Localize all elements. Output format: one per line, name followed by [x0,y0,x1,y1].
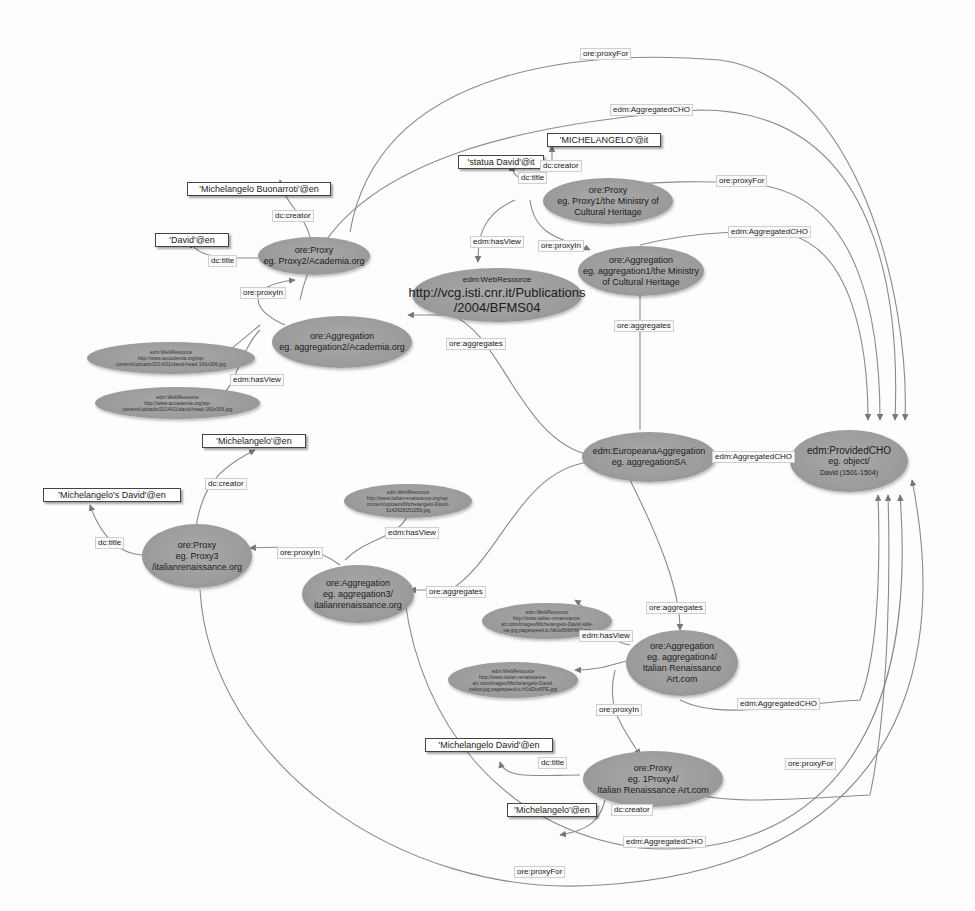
aggregation3-node[interactable]: ore:Aggregationeg. aggregation3/italianr… [302,565,414,623]
node-example: eg. aggregation3/ [314,589,402,600]
edge-label-hasview: edm:hasView [470,236,524,248]
node-example: Art.com [643,674,722,685]
node-type: ore:Proxy [263,245,364,256]
edge-label-hasview: edm:hasView [579,630,633,642]
literal-david-en[interactable]: 'David'@en [155,233,229,247]
edge-label-aggregatedcho: edm:AggregatedCHO [610,104,693,116]
edm-graph-diagram: edm:ProvidedCHOeg. object/David (1501-15… [0,0,975,911]
literal-michelangelos-david-en[interactable]: 'Michelangelo's David'@en [43,488,181,502]
node-example: David (1501-1504) [807,467,891,478]
edge-label-dc-creator: dc:creator [205,478,247,490]
node-example: Italian Renaissance [643,663,722,674]
node-url: http://vcg.isti.cnr.it/Publications [408,285,585,300]
edge-label-dc-title: dc:title [208,255,237,267]
node-example: eg. object/ [807,456,891,467]
edge-label-aggregates: ore:aggregates [614,320,674,332]
edge-label-dc-title: dc:title [95,537,124,549]
literal-michelangelo-en-2[interactable]: 'Michelangelo'@en [507,803,597,817]
edge-label-dc-title: dc:title [538,757,567,769]
node-example: Cultural Heritage [557,207,659,218]
edge-label-proxyin: ore:proxyIn [240,287,286,299]
node-example: eg. Proxy2/Academia.org [263,256,364,267]
webresource3-node[interactable]: edm:WebResourcehttp://www.italianrenaiss… [344,484,472,518]
literal-michelangelo-en-1[interactable]: 'Michelangelo'@en [202,434,306,448]
literal-statua-david-it[interactable]: 'statua David'@it [458,155,544,169]
edge-label-proxyfor: ore:proxyFor [785,758,836,770]
edge-label-aggregatedcho: edm:AggregatedCHO [712,451,795,463]
node-type: edm:ProvidedCHO [807,445,891,456]
node-example: eg. aggregationSA [593,457,706,468]
webresource4b-node[interactable]: edm:WebResourcehttp://www.italian-renais… [448,662,578,698]
proxy3-node[interactable]: ore:Proxyeg. Proxy3/italianrenaissance.o… [142,524,252,588]
node-example: of Cultural Heritage [583,277,699,288]
edge-label-hasview: edm:hasView [385,527,439,539]
edge-label-aggregatedcho: edm:AggregatedCHO [728,226,811,238]
node-example: italianrenaissance.org [314,600,402,611]
edge-label-proxyin: ore:proxyIn [538,240,584,252]
edge-label-aggregates: ore:aggregates [446,338,506,350]
node-type: ore:Proxy [597,763,709,774]
edge-label-hasview: edm:hasView [230,374,284,386]
edge-label-aggregatedcho: edm:AggregatedCHO [623,836,706,848]
edge-label-aggregates: ore:aggregates [426,586,486,598]
edge-label-dc-title: dc:title [518,172,547,184]
node-type: edm:EuropeanaAggregation [593,446,706,457]
node-url: 6142628151059.jpg [367,507,450,513]
edge-label-dc-creator: dc:creator [611,804,653,816]
node-type: ore:Aggregation [314,578,402,589]
node-type: ore:Proxy [557,185,659,196]
node-example: eg. aggregation2/Academia.org [279,342,405,353]
webresource1-node[interactable]: edm:WebResourcehttp://vcg.isti.cnr.it/Pu… [412,268,582,322]
node-example: eg. Proxy1/the Ministry of [557,196,659,207]
aggregation2-node[interactable]: ore:Aggregationeg. aggregation2/Academia… [272,316,412,368]
node-example: eg. aggregation1/the Ministry [583,266,699,277]
literal-michelangelo-it[interactable]: 'MICHELANGELO'@it [547,133,661,147]
literal-michelangelo-david-en[interactable]: 'Michelangelo David'@en [425,738,553,752]
webresource2a-node[interactable]: edm:WebResourcehttp://www.accademia.org/… [87,342,255,374]
proxy2-node[interactable]: ore:Proxyeg. Proxy2/Academia.org [258,237,370,275]
edge-label-proxyfor: ore:proxyFor [716,175,767,187]
node-type: ore:Proxy [152,540,242,551]
webresource2b-node[interactable]: edm:WebResourcehttp://www.accademia.org/… [95,387,260,419]
node-example: Italian Renaissance Art.com [597,785,709,796]
aggregation1-node[interactable]: ore:Aggregationeg. aggregation1/the Mini… [578,246,704,296]
edge-label-aggregatedcho: edm:AggregatedCHO [737,698,820,710]
edge-label-aggregates: ore:aggregates [646,602,706,614]
node-url: /2004/BFMS04 [408,300,585,315]
node-url: content/uploads/2014/01/david-head-160x3… [116,361,226,367]
node-example: eg. aggregation4/ [643,652,722,663]
node-url: below.jpg.pagespeed.ic.H0dDtxKPE.jpg [469,686,557,692]
proxy4-node[interactable]: ore:Proxyeg. 1Proxy4/Italian Renaissance… [583,751,723,807]
node-type: ore:Aggregation [583,255,699,266]
aggregation4-node[interactable]: ore:Aggregationeg. aggregation4/Italian … [626,630,738,696]
node-example: eg. Proxy3 [152,551,242,562]
europeana-aggregation-node[interactable]: edm:EuropeanaAggregationeg. aggregationS… [582,432,716,482]
edge-label-proxyin: ore:proxyIn [596,704,642,716]
provided-cho-node[interactable]: edm:ProvidedCHOeg. object/David (1501-15… [790,430,908,492]
node-type: ore:Aggregation [279,331,405,342]
node-type: ore:Aggregation [643,641,722,652]
edge-label-proxyin: ore:proxyIn [277,547,323,559]
literal-buonarroti-en[interactable]: 'Michelangelo Buonarroti'@en [187,182,331,196]
node-example: /italianrenaissance.org [152,562,242,573]
node-type: edm:WebResource [408,275,585,285]
edge-label-proxyfor: ore:proxyFor [514,866,565,878]
node-example: eg. 1Proxy4/ [597,774,709,785]
edge-label-dc-creator: dc:creator [540,160,582,172]
node-url: content/uploads/2014/01/david-head-160x3… [123,406,233,412]
edge-label-dc-creator: dc:creator [272,210,314,222]
proxy1-node[interactable]: ore:Proxyeg. Proxy1/the Ministry ofCultu… [543,178,673,224]
edge-label-proxyfor: ore:proxyFor [580,48,631,60]
